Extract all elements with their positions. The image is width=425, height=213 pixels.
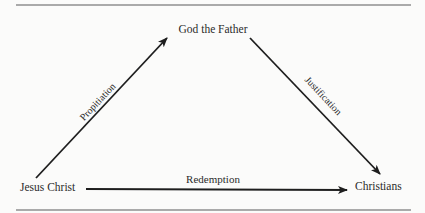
node-jesus-christ: Jesus Christ xyxy=(20,181,76,193)
edge-label-justification: Justification xyxy=(303,74,344,117)
node-christians: Christians xyxy=(355,180,402,192)
redemption-arrow xyxy=(86,189,347,190)
edge-label-propitiation: Propitiation xyxy=(77,81,117,123)
diagram-canvas: God the Father Jesus Christ Christians P… xyxy=(0,0,425,213)
edge-label-redemption: Redemption xyxy=(186,173,240,185)
propitiation-arrow xyxy=(36,38,167,178)
node-god-the-father: God the Father xyxy=(179,23,248,35)
justification-arrow xyxy=(250,38,380,174)
triangle-diagram: God the Father Jesus Christ Christians P… xyxy=(0,0,425,213)
